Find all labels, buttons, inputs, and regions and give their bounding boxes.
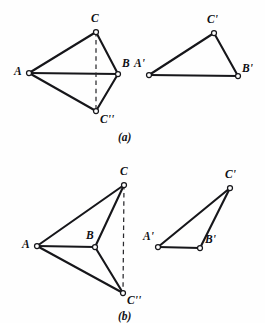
vertex-label-C: C [120, 166, 128, 178]
vertex-label-C: C [91, 13, 99, 25]
vertex-B1 [236, 74, 241, 79]
vertex-A [35, 244, 40, 249]
vertex-C [122, 183, 127, 188]
vertex-label-B: B [122, 58, 130, 70]
edge-A-C [29, 32, 96, 73]
edge-C2-A [29, 73, 96, 111]
vertex-A1 [156, 245, 161, 250]
vertex-C [94, 30, 99, 35]
vertex-label-C1: C' [207, 14, 218, 26]
edge-A1-C1 [149, 33, 214, 75]
vertex-C2 [121, 291, 126, 296]
edge-C1-B1 [214, 33, 238, 76]
vertex-label-B1: B' [205, 234, 216, 246]
geometry-figure: ACBC''A'C'B'(a)ACBC''A'C'B'(b) [0, 0, 265, 323]
vertex-B1 [198, 246, 203, 251]
edge-B1-A1 [158, 247, 200, 248]
vertex-C1 [212, 31, 217, 36]
vertex-B [93, 245, 98, 250]
vertex-label-A: A [22, 239, 30, 251]
edge-A1-C1 [158, 188, 230, 247]
vertex-label-A: A [14, 66, 22, 78]
vertex-B [116, 72, 121, 77]
vertex-A1 [147, 73, 152, 78]
vertex-C1 [228, 186, 233, 191]
edge-C2-A [37, 246, 123, 293]
figure-canvas [0, 0, 265, 323]
edge-B-C2 [96, 74, 118, 111]
vertex-label-C1: C' [225, 169, 236, 181]
dashed-edge-C-C2 [123, 185, 124, 293]
panel-b-triangle-A1B1C1 [156, 186, 233, 251]
edge-B1-A1 [149, 75, 238, 76]
edge-A-B [29, 73, 118, 74]
panel-caption-panel-a: (a) [118, 132, 131, 144]
vertex-label-C2: C'' [127, 295, 141, 307]
vertex-A [27, 71, 32, 76]
vertex-label-A1: A' [143, 231, 154, 243]
panel-a-kite-ACBC2 [27, 30, 121, 114]
vertex-label-A1: A' [134, 58, 145, 70]
panel-a-triangle-A1B1C1 [147, 31, 241, 79]
panel-caption-panel-b: (b) [118, 311, 131, 323]
vertex-label-C2: C'' [100, 114, 114, 126]
panel-b-dart-ACBC2 [35, 183, 127, 296]
vertex-label-B: B [86, 230, 94, 242]
vertex-label-B1: B' [242, 63, 253, 75]
edge-C-B [96, 32, 118, 74]
edge-A-C [37, 185, 124, 246]
vertex-C2 [94, 109, 99, 114]
edge-A-B [37, 246, 95, 247]
